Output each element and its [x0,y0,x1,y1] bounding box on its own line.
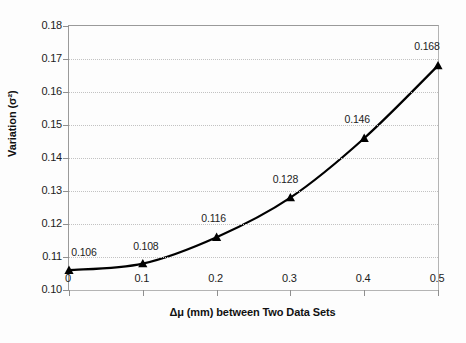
x-axis-tick-label: 0.4 [356,272,371,284]
data-point-label: 0.128 [273,173,298,185]
y-axis-tick [63,125,69,126]
data-point-label: 0.106 [71,246,96,258]
data-point-marker [138,259,147,267]
x-axis-tick [438,290,439,296]
y-axis-tick-label: 0.11 [28,250,62,262]
y-axis-tick-label: 0.12 [28,217,62,229]
y-axis-tick [63,26,69,27]
x-axis-title: Δμ (mm) between Two Data Sets [68,306,437,318]
y-axis-title: Variation (σ²) [6,90,18,157]
y-axis-tick [63,224,69,225]
gridline-horizontal [69,125,438,126]
x-axis-tick-label: 0 [65,272,71,284]
gridline-horizontal [69,191,438,192]
gridline-horizontal [69,92,438,93]
y-axis-tick [63,59,69,60]
x-axis-tick-label: 0.1 [134,272,149,284]
gridline-horizontal [69,224,438,225]
y-axis-tick-label: 0.17 [28,52,62,64]
x-axis-tick [69,290,70,296]
data-point-label: 0.146 [345,113,370,125]
y-axis-tick [63,257,69,258]
data-point-label: 0.168 [414,40,439,52]
data-point-marker [433,61,442,69]
y-axis-tick-label: 0.10 [28,283,62,295]
y-axis-tick [63,191,69,192]
plot-area [68,25,439,291]
series-line [69,66,438,271]
data-point-label: 0.108 [133,240,158,252]
x-axis-tick-label: 0.2 [208,272,223,284]
data-point-marker [360,134,369,142]
y-axis-tick-label: 0.18 [28,19,62,31]
y-axis-tick-label: 0.16 [28,85,62,97]
y-axis-tick-label: 0.14 [28,151,62,163]
x-axis-tick [364,290,365,296]
data-point-marker [212,233,221,241]
gridline-horizontal [69,257,438,258]
x-axis-tick-label: 0.5 [430,272,445,284]
gridline-horizontal [69,158,438,159]
x-axis-tick-label: 0.3 [282,272,297,284]
y-axis-tick-label: 0.15 [28,118,62,130]
gridline-horizontal [69,59,438,60]
x-axis-tick [217,290,218,296]
data-point-marker [286,193,295,201]
chart-figure: Variation (σ²) Δμ (mm) between Two Data … [0,0,466,343]
data-point-label: 0.116 [201,212,226,224]
y-axis-tick-label: 0.13 [28,184,62,196]
x-axis-tick [290,290,291,296]
y-axis-tick [63,158,69,159]
y-axis-tick [63,92,69,93]
x-axis-tick [143,290,144,296]
